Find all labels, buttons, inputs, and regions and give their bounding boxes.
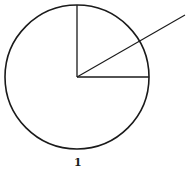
figure-label: 1 — [74, 157, 82, 168]
circle-diagram — [0, 0, 190, 169]
diagonal-ray-line — [77, 15, 185, 77]
